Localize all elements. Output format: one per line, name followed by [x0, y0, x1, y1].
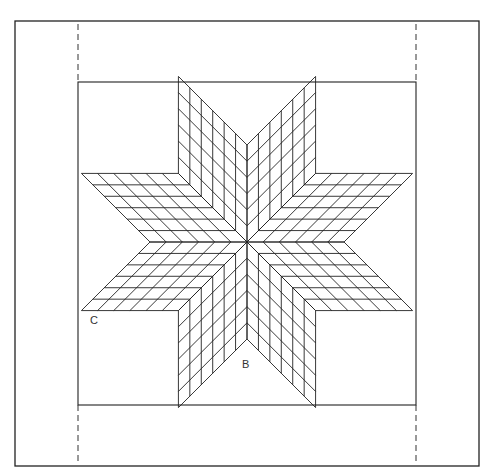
label-c: C [90, 314, 98, 326]
quilt-diagram [0, 0, 488, 473]
label-b: B [242, 358, 249, 370]
